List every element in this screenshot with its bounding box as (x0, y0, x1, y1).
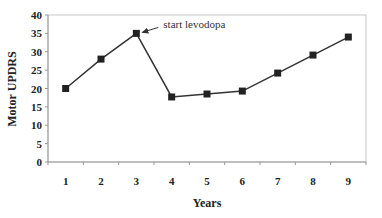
line-chart: 0510152025303540 123456789 start levodop… (0, 0, 382, 218)
y-tick-label: 25 (31, 64, 43, 76)
plot-border (48, 15, 366, 162)
data-point-marker (239, 88, 246, 95)
y-axis-title: Motor UPDRS (5, 51, 19, 127)
x-tick-label: 6 (240, 175, 246, 187)
data-point-marker (133, 30, 140, 37)
x-tick-label: 7 (275, 175, 281, 187)
plot-frame (48, 15, 366, 162)
y-axis: 0510152025303540 (31, 9, 48, 168)
y-tick-label: 35 (31, 27, 43, 39)
x-axis-title: Years (193, 196, 222, 210)
data-point-marker (98, 56, 105, 63)
x-tick-label: 3 (134, 175, 140, 187)
x-tick-label: 2 (98, 175, 104, 187)
data-point-marker (274, 70, 281, 77)
x-tick-label: 5 (204, 175, 210, 187)
annotation-label: start levodopa (163, 18, 225, 30)
y-tick-label: 20 (31, 83, 43, 95)
y-tick-label: 0 (37, 156, 43, 168)
x-tick-label: 4 (169, 175, 175, 187)
data-point-marker (345, 34, 352, 41)
data-point-marker (62, 85, 69, 92)
annotation-arrow-icon (142, 27, 158, 32)
annotation: start levodopa (142, 18, 225, 32)
y-tick-label: 30 (31, 46, 43, 58)
y-tick-label: 10 (31, 119, 43, 131)
y-tick-label: 5 (37, 138, 43, 150)
data-point-marker (310, 52, 317, 59)
y-tick-label: 40 (31, 9, 43, 21)
y-tick-label: 15 (31, 101, 43, 113)
data-series (62, 30, 352, 101)
x-tick-label: 8 (310, 175, 316, 187)
series-line (66, 33, 349, 97)
data-point-marker (168, 93, 175, 100)
x-tick-label: 1 (63, 175, 69, 187)
x-axis: 123456789 (48, 162, 366, 187)
data-point-marker (204, 91, 211, 98)
x-tick-label: 9 (346, 175, 352, 187)
